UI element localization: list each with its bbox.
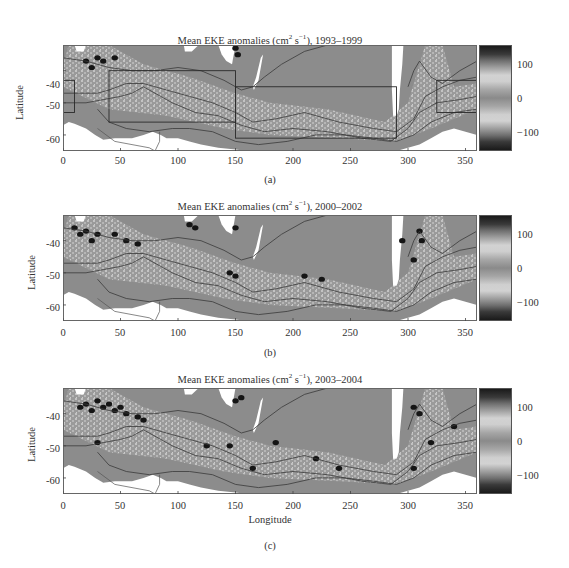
panel-c-colorbar (479, 388, 512, 494)
xtick: 100 (163, 500, 193, 511)
dark-anomaly-patch (112, 408, 118, 413)
panel-c-ytick: -50 (34, 443, 60, 454)
dark-anomaly-patch (336, 466, 342, 471)
panel-c-map (63, 388, 477, 494)
panel-c-ytick: -60 (34, 475, 60, 486)
panel-c-cbar-tick: 100 (517, 402, 533, 413)
dark-anomaly-patch (106, 401, 112, 406)
dark-anomaly-patch (140, 418, 146, 423)
dark-anomaly-patch (123, 411, 129, 416)
panel-c-ytick: -40 (34, 411, 60, 422)
xtick: 150 (220, 500, 250, 511)
xtick: 350 (450, 500, 480, 511)
dark-anomaly-patch (416, 411, 422, 416)
panel-c-plot (63, 388, 477, 494)
xtick: 250 (335, 500, 365, 511)
dark-anomaly-patch (227, 443, 233, 448)
dark-anomaly-patch (135, 414, 141, 419)
panel-c-xlabel: Longitude (63, 514, 477, 525)
dark-anomaly-patch (117, 405, 123, 410)
xtick: 200 (278, 500, 308, 511)
dark-anomaly-patch (232, 398, 238, 403)
panel-c-title: Mean EKE anomalies (cm2 s−1), 2003–2004 (63, 372, 477, 385)
dark-anomaly-patch (94, 398, 100, 403)
panel-c: Mean EKE anomalies (cm2 s−1), 2003–2004 … (0, 0, 569, 568)
dark-anomaly-patch (89, 408, 95, 413)
dark-anomaly-patch (238, 395, 244, 400)
dark-anomaly-patch (250, 466, 256, 471)
dark-anomaly-patch (428, 440, 434, 445)
xtick: 50 (105, 500, 135, 511)
dark-anomaly-patch (77, 405, 83, 410)
dark-anomaly-patch (273, 440, 279, 445)
xtick: 0 (48, 500, 78, 511)
panel-c-label: (c) (63, 540, 477, 551)
xtick: 300 (393, 500, 423, 511)
dark-anomaly-patch (411, 405, 417, 410)
panel-c-cbar-tick: 0 (517, 436, 522, 447)
panel-c-cbar-tick: −100 (517, 470, 539, 481)
